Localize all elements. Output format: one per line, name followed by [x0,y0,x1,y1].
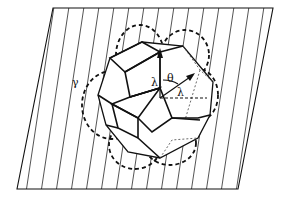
label-gamma: γ [72,76,79,89]
label-lambda-vertical: λ [151,76,158,89]
label-lambda-horizontal: λ [177,86,184,99]
label-theta: θ [167,72,174,85]
diagram-canvas: γ λ θ λ [0,0,291,199]
